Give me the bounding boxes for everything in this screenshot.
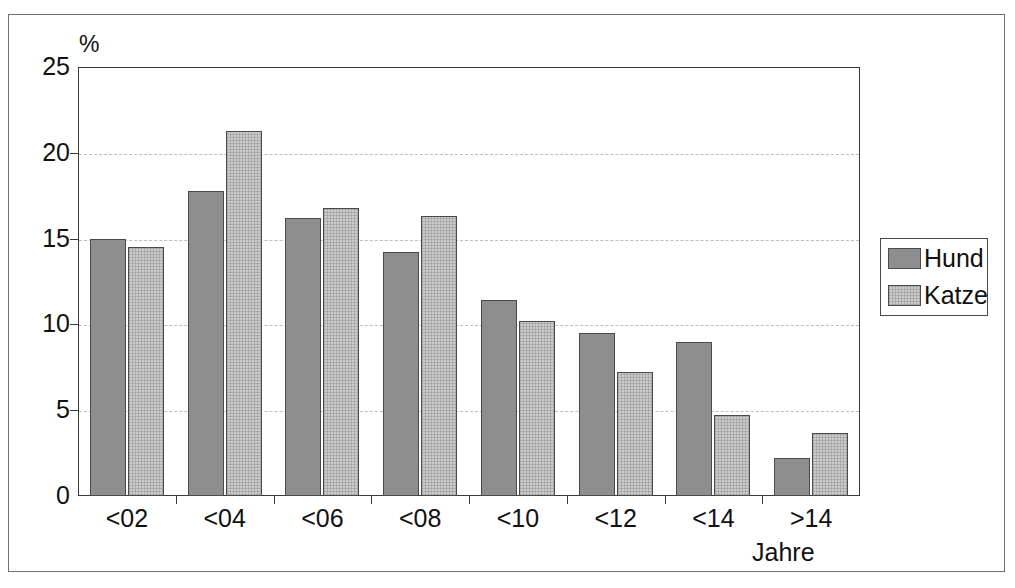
legend-label-katze: Katze: [924, 283, 988, 308]
legend-swatch-hund-icon: [888, 248, 921, 269]
x-axis-tick-mark-6: [665, 496, 666, 504]
gridline-y-10: [79, 325, 859, 326]
legend-item-hund[interactable]: Hund: [888, 243, 984, 273]
x-axis-tick-label-1: <04: [170, 505, 280, 533]
y-axis-tick-label-20: 20: [26, 140, 70, 165]
x-axis-tick-label-6: <14: [658, 505, 768, 533]
y-axis-unit-label: %: [79, 31, 99, 58]
x-axis-tick-mark-7: [762, 496, 763, 504]
y-axis-tick-mark-20: [70, 153, 78, 154]
x-axis-tick-mark-5: [567, 496, 568, 504]
x-axis-title: Jahre: [752, 538, 815, 567]
gridline-y-20: [79, 154, 859, 155]
chart-figure: % 0510152025 <02<04<06<08<10<12<14>14 Ja…: [0, 0, 1015, 588]
y-axis-tick-mark-15: [70, 239, 78, 240]
x-axis-tick-label-5: <12: [561, 505, 671, 533]
y-axis-tick-label-5: 5: [26, 397, 70, 422]
x-axis-tick-label-2: <06: [267, 505, 377, 533]
legend: Hund Katze: [880, 238, 988, 316]
gridline-y-5: [79, 411, 859, 412]
gridline-y-15: [79, 240, 859, 241]
y-axis-tick-label-15: 15: [26, 226, 70, 251]
x-axis-tick-label-7: >14: [756, 505, 866, 533]
y-axis-tick-label-25: 25: [26, 54, 70, 79]
legend-item-katze[interactable]: Katze: [888, 280, 988, 310]
y-axis-tick-labels: 0510152025: [18, 67, 70, 496]
legend-label-hund: Hund: [924, 246, 984, 271]
x-axis-tick-label-4: <10: [463, 505, 573, 533]
x-axis-tick-mark-2: [274, 496, 275, 504]
x-axis-tick-mark-3: [371, 496, 372, 504]
x-axis-tick-label-0: <02: [72, 505, 182, 533]
x-axis-tick-mark-4: [469, 496, 470, 504]
x-axis-tick-label-3: <08: [365, 505, 475, 533]
x-axis-tick-labels: <02<04<06<08<10<12<14>14: [78, 505, 860, 545]
y-axis-tick-mark-10: [70, 324, 78, 325]
y-axis-tick-label-0: 0: [26, 483, 70, 508]
y-axis-tick-mark-5: [70, 410, 78, 411]
legend-swatch-katze-icon: [888, 285, 921, 306]
y-axis-tick-label-10: 10: [26, 311, 70, 336]
plot-area: [78, 67, 860, 496]
x-axis-tick-mark-1: [176, 496, 177, 504]
